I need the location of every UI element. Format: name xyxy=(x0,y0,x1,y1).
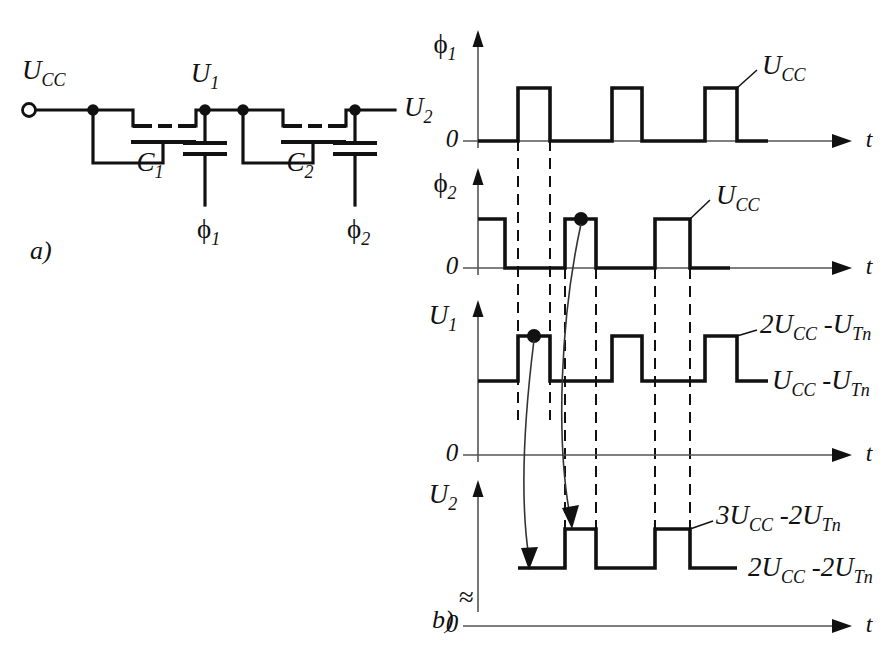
circuit-clock2-label: ϕ2 xyxy=(347,214,370,249)
phi2-x-axis-arrow xyxy=(832,261,852,275)
phi1-time-label: t xyxy=(866,126,874,152)
supply-terminal-icon xyxy=(23,104,36,117)
circuit-cap1-label: C1 xyxy=(136,147,163,182)
phi1-zero-label: 0 xyxy=(446,125,459,152)
figure-svg: UCC U1 U2 C1 C2 ϕ1 ϕ2 a) xyxy=(0,0,892,671)
phi1-x-axis-arrow xyxy=(832,134,852,148)
part-b-label: b) xyxy=(432,605,454,634)
u2-axis-break-symbol: ≈ xyxy=(459,582,474,612)
circuit-clock1-label: ϕ1 xyxy=(197,214,220,249)
u1-high-callout xyxy=(737,330,757,336)
circuit-cap2-label: C2 xyxy=(286,147,313,182)
u2-waveform xyxy=(518,529,737,568)
part-a-label: a) xyxy=(30,236,52,265)
u2-time-label: t xyxy=(866,611,874,637)
phi1-axis-label: ϕ1 xyxy=(433,29,456,64)
phi2-level-label: UCC xyxy=(716,180,761,215)
phi2-y-axis-arrow xyxy=(473,168,484,185)
u2-y-axis-arrow xyxy=(473,480,484,497)
u2-high-callout xyxy=(690,521,713,529)
u1-high-level-label: 2UCC -UTn xyxy=(760,309,871,344)
u1-x-axis-arrow xyxy=(832,448,852,462)
panel-u2: U2 ≈ 0 t 3UCC -2UTn 2UCC -2UTn b) xyxy=(429,479,874,637)
circuit-node-u2-label: U2 xyxy=(404,92,433,127)
panel-phi2: ϕ2 0 t UCC xyxy=(433,168,873,279)
u2-low-level-label: 2UCC -2UTn xyxy=(748,552,873,587)
circuit-diagram: UCC U1 U2 C1 C2 ϕ1 ϕ2 a) xyxy=(22,55,433,265)
circuit-node-supply xyxy=(87,104,99,116)
dashed-guide-lines xyxy=(518,140,690,540)
u2-high-level-label: 3UCC -2UTn xyxy=(715,500,841,535)
phi1-level-label: UCC xyxy=(762,50,807,85)
u1-zero-label: 0 xyxy=(446,439,459,466)
causal-arrow-u1-to-u2 xyxy=(524,340,534,558)
phi2-axis-label: ϕ2 xyxy=(433,168,456,203)
u1-low-level-label: UCC -UTn xyxy=(772,365,870,400)
circuit-node-u1-label: U1 xyxy=(191,58,220,93)
circuit-supply-label: UCC xyxy=(22,55,67,90)
phi1-y-axis-arrow xyxy=(473,30,484,47)
phi2-marker-dot xyxy=(574,212,588,226)
u2-x-axis-arrow xyxy=(832,619,852,633)
u2-axis-label: U2 xyxy=(429,479,458,514)
phi2-zero-label: 0 xyxy=(446,252,459,279)
u1-y-axis-arrow xyxy=(473,300,484,317)
panel-phi1: ϕ1 0 t UCC xyxy=(433,29,873,152)
phi2-level-callout xyxy=(690,200,710,219)
u1-waveform xyxy=(478,336,768,381)
wire-nodeA-to-m1-drain xyxy=(93,110,133,126)
u1-axis-label: U1 xyxy=(429,300,458,335)
wire-nodeB-to-m2-drain xyxy=(243,110,283,126)
phi1-waveform xyxy=(478,88,768,141)
figure-root: UCC U1 U2 C1 C2 ϕ1 ϕ2 a) xyxy=(0,0,892,671)
u1-time-label: t xyxy=(866,440,874,466)
phi2-waveform xyxy=(478,219,730,268)
panel-u1: U1 0 t 2UCC -UTn UCC -UTn xyxy=(429,300,874,466)
phi1-level-callout xyxy=(737,70,757,88)
phi2-time-label: t xyxy=(866,253,874,279)
